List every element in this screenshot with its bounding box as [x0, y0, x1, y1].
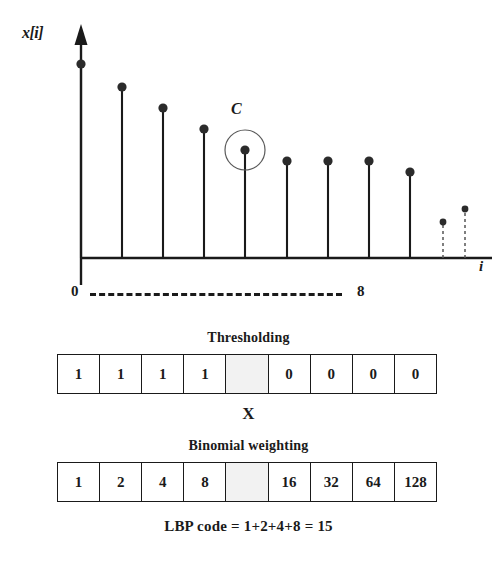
thresholding-cell-3: 1 [184, 355, 226, 394]
lbp-code-result: LBP code = 1+2+4+8 = 15 [0, 518, 497, 535]
thresholding-cell-5: 0 [268, 355, 310, 394]
y-axis-label: x[i] [22, 24, 43, 42]
binomial-cell-2: 4 [142, 463, 184, 502]
thresholding-table: 1 1 1 1 0 0 0 0 [57, 354, 437, 394]
table-row: 1 2 4 8 16 32 64 128 [58, 463, 437, 502]
thresholding-cell-8: 0 [394, 355, 436, 394]
thresholding-cell-center [226, 355, 268, 394]
binomial-caption: Binomial weighting [0, 438, 497, 454]
thresholding-cell-6: 0 [310, 355, 352, 394]
table-row: 1 1 1 1 0 0 0 0 [58, 355, 437, 394]
thresholding-cell-0: 1 [58, 355, 100, 394]
thresholding-cell-1: 1 [100, 355, 142, 394]
scale-start-label: 0 [71, 283, 79, 300]
thresholding-caption: Thresholding [0, 330, 497, 346]
thresholding-cell-2: 1 [142, 355, 184, 394]
binomial-cell-5: 16 [268, 463, 310, 502]
binomial-cell-0: 1 [58, 463, 100, 502]
binomial-weighting-table: 1 2 4 8 16 32 64 128 [57, 462, 437, 502]
binomial-cell-3: 8 [184, 463, 226, 502]
lbp-diagram-page: x[i] i C 0 8 Thresholding 1 1 1 1 0 0 0 … [0, 0, 497, 571]
multiply-operator: X [0, 404, 497, 424]
index-scale-row: 0 8 [0, 283, 497, 305]
scale-end-label: 8 [357, 283, 365, 300]
binomial-cell-7: 64 [352, 463, 394, 502]
center-pixel-label: C [231, 100, 242, 118]
binomial-cell-center [226, 463, 268, 502]
stem-plot-svg [0, 0, 497, 300]
binomial-cell-6: 32 [310, 463, 352, 502]
stem-series [81, 64, 465, 258]
scale-dashed-line [90, 293, 342, 296]
thresholding-cell-7: 0 [352, 355, 394, 394]
stem-plot: x[i] i C [0, 0, 497, 300]
binomial-cell-1: 2 [100, 463, 142, 502]
binomial-cell-8: 128 [394, 463, 436, 502]
x-axis-label: i [479, 258, 483, 275]
